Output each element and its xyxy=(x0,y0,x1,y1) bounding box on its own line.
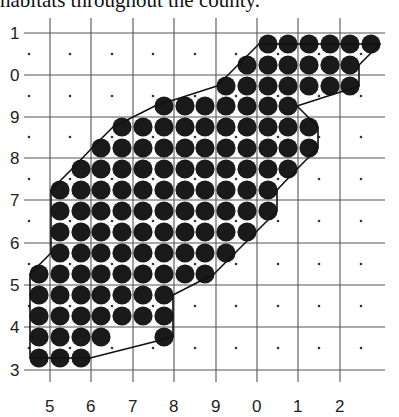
filled-dot xyxy=(154,138,173,157)
filled-dot xyxy=(133,243,152,262)
y-label: 1 xyxy=(10,24,19,43)
y-label: 3 xyxy=(10,361,19,380)
filled-dot xyxy=(278,159,297,178)
x-label: 2 xyxy=(335,397,344,416)
x-label: 9 xyxy=(211,397,220,416)
y-label: 7 xyxy=(10,191,19,210)
filled-dot xyxy=(258,201,277,220)
filled-dot xyxy=(133,117,152,136)
filled-dot xyxy=(237,117,256,136)
filled-dot xyxy=(195,201,214,220)
y-label: 9 xyxy=(10,108,19,127)
filled-dot xyxy=(133,306,152,325)
x-label: 1 xyxy=(293,397,302,416)
filled-dot xyxy=(112,222,131,241)
filled-dot xyxy=(133,201,152,220)
y-axis-labels: 109876543 xyxy=(10,24,19,380)
filled-dot xyxy=(50,222,69,241)
filled-dot xyxy=(278,96,297,115)
filled-dots xyxy=(29,34,380,367)
filled-dot xyxy=(71,201,90,220)
filled-dot xyxy=(216,222,235,241)
filled-dot xyxy=(320,55,339,74)
filled-dot xyxy=(175,243,194,262)
filled-dot xyxy=(133,222,152,241)
filled-dot xyxy=(258,76,277,95)
y-label: 0 xyxy=(10,66,19,85)
filled-dot xyxy=(175,180,194,199)
filled-dot xyxy=(50,285,69,304)
filled-dot xyxy=(91,306,110,325)
filled-dot xyxy=(112,159,131,178)
filled-dot xyxy=(71,180,90,199)
filled-dot xyxy=(278,117,297,136)
filled-dot xyxy=(175,138,194,157)
filled-dot xyxy=(91,180,110,199)
filled-dot xyxy=(112,138,131,157)
filled-dot xyxy=(237,55,256,74)
y-label: 5 xyxy=(10,276,19,295)
filled-dot xyxy=(154,243,173,262)
filled-dot xyxy=(50,201,69,220)
grid-dot-map: 109876543 56789012 xyxy=(0,0,399,417)
filled-dot xyxy=(71,285,90,304)
filled-dot xyxy=(112,117,131,136)
small-dots xyxy=(28,53,363,350)
filled-dot xyxy=(154,264,173,283)
filled-dot xyxy=(299,138,318,157)
filled-dot xyxy=(258,96,277,115)
filled-dot xyxy=(133,180,152,199)
filled-dot xyxy=(216,180,235,199)
filled-dot xyxy=(258,159,277,178)
filled-dot xyxy=(237,159,256,178)
filled-dot xyxy=(71,264,90,283)
filled-dot xyxy=(133,159,152,178)
x-label: 8 xyxy=(169,397,178,416)
filled-dot xyxy=(154,180,173,199)
filled-dot xyxy=(91,285,110,304)
filled-dot xyxy=(154,222,173,241)
filled-dot xyxy=(237,96,256,115)
filled-dot xyxy=(71,327,90,346)
filled-dot xyxy=(195,264,214,283)
filled-dot xyxy=(154,117,173,136)
filled-dot xyxy=(112,201,131,220)
filled-dot xyxy=(216,96,235,115)
filled-dot xyxy=(154,201,173,220)
filled-dot xyxy=(50,264,69,283)
x-label: 7 xyxy=(128,397,137,416)
filled-dot xyxy=(237,201,256,220)
filled-dot xyxy=(50,243,69,262)
x-axis-labels: 56789012 xyxy=(45,397,344,416)
filled-dot xyxy=(175,117,194,136)
filled-dot xyxy=(91,159,110,178)
filled-dot xyxy=(195,222,214,241)
filled-dot xyxy=(237,222,256,241)
filled-dot xyxy=(278,55,297,74)
filled-dot xyxy=(50,180,69,199)
filled-dot xyxy=(195,138,214,157)
filled-dot xyxy=(258,138,277,157)
filled-dot xyxy=(195,96,214,115)
filled-dot xyxy=(112,264,131,283)
filled-dot xyxy=(278,138,297,157)
filled-dot xyxy=(91,222,110,241)
y-label: 4 xyxy=(10,318,19,337)
x-label: 5 xyxy=(45,397,54,416)
filled-dot xyxy=(175,264,194,283)
filled-dot xyxy=(175,222,194,241)
filled-dot xyxy=(237,138,256,157)
filled-dot xyxy=(29,264,48,283)
filled-dot xyxy=(133,285,152,304)
y-label: 6 xyxy=(10,234,19,253)
filled-dot xyxy=(91,201,110,220)
filled-dot xyxy=(112,306,131,325)
filled-dot xyxy=(216,243,235,262)
filled-dot xyxy=(112,180,131,199)
x-label: 6 xyxy=(86,397,95,416)
filled-dot xyxy=(237,180,256,199)
filled-dot xyxy=(29,306,48,325)
filled-dot xyxy=(154,159,173,178)
filled-dot xyxy=(195,180,214,199)
filled-dot xyxy=(175,159,194,178)
